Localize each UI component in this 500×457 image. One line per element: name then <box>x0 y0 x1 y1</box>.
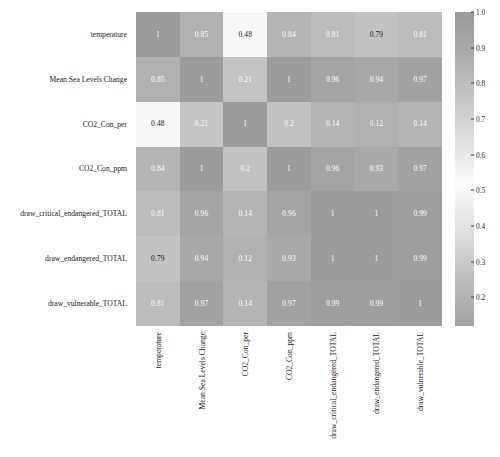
y-tick-label-text: draw_critical_endangered_TOTAL <box>20 209 127 218</box>
y-tick-label: draw_critical_endangered_TOTAL <box>0 191 131 236</box>
heatmap-cell-value: 0.81 <box>413 31 427 39</box>
heatmap-cell-value: 1 <box>200 165 204 173</box>
heatmap-cell-value: 0.2 <box>284 120 294 128</box>
heatmap-cell-value: 0.79 <box>151 255 165 263</box>
heatmap-cell-value: 0.12 <box>370 120 384 128</box>
heatmap-cell-value: 0.14 <box>239 300 253 308</box>
x-tick-label-text: temperature <box>153 332 162 368</box>
heatmap-cell-value: 0.14 <box>413 120 427 128</box>
y-tick-label: temperature <box>0 12 131 57</box>
heatmap-cell: 0.14 <box>311 102 355 147</box>
heatmap-cell-value: 0.94 <box>195 255 209 263</box>
heatmap-cell-value: 0.99 <box>370 300 384 308</box>
colorbar-tick-labels: 1.00.90.80.70.60.50.40.30.2 <box>476 12 500 326</box>
heatmap-cell: 1 <box>136 12 180 57</box>
x-tick-label: temperature <box>136 330 180 455</box>
heatmap-cell: 0.85 <box>136 57 180 102</box>
heatmap-cell: 0.97 <box>180 281 224 326</box>
heatmap-cell-value: 0.99 <box>413 255 427 263</box>
heatmap-cell-value: 0.96 <box>326 165 340 173</box>
heatmap-cell: 0.81 <box>136 281 180 326</box>
heatmap-cell: 0.21 <box>223 57 267 102</box>
heatmap-cell-value: 1 <box>287 165 291 173</box>
x-tick-label-text: Mean Sea Levels Change <box>197 332 206 409</box>
heatmap-cell: 0.14 <box>398 102 442 147</box>
heatmap-cell-value: 1 <box>374 255 378 263</box>
colorbar-tick-mark <box>471 83 474 84</box>
heatmap-cell: 1 <box>398 281 442 326</box>
heatmap-cell: 1 <box>355 236 399 281</box>
heatmap-cell: 0.48 <box>223 12 267 57</box>
heatmap-cell-value: 0.48 <box>151 120 165 128</box>
y-tick-label-text: draw_endangered_TOTAL <box>45 254 127 263</box>
heatmap-cell-value: 0.93 <box>282 255 296 263</box>
heatmap-cell-value: 0.2 <box>240 165 250 173</box>
heatmap-cell: 0.79 <box>355 12 399 57</box>
heatmap-cell-value: 1 <box>156 31 160 39</box>
heatmap-cell: 0.97 <box>398 147 442 192</box>
heatmap-grid: 10.850.480.840.810.790.810.8510.2110.960… <box>136 12 442 326</box>
heatmap-cell: 1 <box>311 191 355 236</box>
heatmap-cell-value: 0.12 <box>239 255 253 263</box>
colorbar-tick-label: 1.0 <box>476 8 485 17</box>
y-tick-label-text: draw_vulnerable_TOTAL <box>48 299 127 308</box>
y-axis-tick-labels: temperatureMean Sea Levels ChangeCO2_Con… <box>0 12 131 326</box>
colorbar-tick-mark <box>471 119 474 120</box>
heatmap-cell-value: 1 <box>331 255 335 263</box>
heatmap-cell: 1 <box>180 147 224 192</box>
heatmap-cell: 0.99 <box>398 236 442 281</box>
colorbar-tick-label: 0.4 <box>476 222 485 231</box>
x-tick-label-text: draw_vulnerable_TOTAL <box>416 332 425 411</box>
colorbar-tick-label: 0.2 <box>476 293 485 302</box>
y-tick-label-text: temperature <box>91 30 127 39</box>
heatmap-cell: 0.48 <box>136 102 180 147</box>
heatmap-cell: 0.12 <box>355 102 399 147</box>
heatmap-cell: 0.97 <box>267 281 311 326</box>
heatmap-cell: 0.84 <box>136 147 180 192</box>
heatmap-cell-value: 0.14 <box>326 120 340 128</box>
x-tick-label: draw_vulnerable_TOTAL <box>398 330 442 455</box>
x-tick-label-text: draw_critical_endangered_TOTAL <box>328 332 337 439</box>
y-tick-label: draw_endangered_TOTAL <box>0 236 131 281</box>
colorbar-tick-mark <box>471 261 474 262</box>
heatmap-cell: 0.81 <box>311 12 355 57</box>
colorbar-tick-label: 0.9 <box>476 43 485 52</box>
heatmap-cell-value: 0.97 <box>413 76 427 84</box>
colorbar-tick-label: 0.8 <box>476 79 485 88</box>
colorbar-tick-label: 0.7 <box>476 115 485 124</box>
heatmap-cell-value: 0.85 <box>151 76 165 84</box>
heatmap-cell: 0.85 <box>180 12 224 57</box>
heatmap-cell-value: 0.97 <box>282 300 296 308</box>
heatmap-cell-value: 0.97 <box>195 300 209 308</box>
heatmap-cell-value: 0.94 <box>370 76 384 84</box>
heatmap-cell: 0.21 <box>180 102 224 147</box>
heatmap-cell-value: 1 <box>374 210 378 218</box>
heatmap-cell: 1 <box>355 191 399 236</box>
heatmap-plot-area: 10.850.480.840.810.790.810.8510.2110.960… <box>136 12 442 326</box>
heatmap-cell-value: 0.96 <box>326 76 340 84</box>
heatmap-cell: 0.97 <box>398 57 442 102</box>
heatmap-cell-value: 0.85 <box>195 31 209 39</box>
heatmap-cell: 1 <box>267 57 311 102</box>
heatmap-cell-value: 1 <box>287 76 291 84</box>
heatmap-cell: 0.84 <box>267 12 311 57</box>
x-tick-label: draw_endangered_TOTAL <box>355 330 399 455</box>
y-tick-label-text: CO2_Con_ppm <box>79 164 127 173</box>
heatmap-cell: 0.96 <box>311 147 355 192</box>
heatmap-cell-value: 0.81 <box>151 300 165 308</box>
heatmap-cell: 0.14 <box>223 191 267 236</box>
heatmap-cell: 0.93 <box>267 236 311 281</box>
x-tick-label-text: draw_endangered_TOTAL <box>372 332 381 414</box>
heatmap-cell-value: 0.99 <box>326 300 340 308</box>
heatmap-cell-value: 0.81 <box>326 31 340 39</box>
y-tick-label: Mean Sea Levels Change <box>0 57 131 102</box>
heatmap-cell-value: 0.96 <box>195 210 209 218</box>
colorbar-tick-mark <box>471 297 474 298</box>
colorbar-tick-mark <box>471 226 474 227</box>
y-tick-label-text: Mean Sea Levels Change <box>50 75 127 84</box>
colorbar-tick-mark <box>471 47 474 48</box>
heatmap-cell-value: 1 <box>200 76 204 84</box>
y-tick-label-text: CO2_Con_per <box>83 120 127 129</box>
heatmap-cell: 0.96 <box>311 57 355 102</box>
heatmap-cell: 0.81 <box>398 12 442 57</box>
